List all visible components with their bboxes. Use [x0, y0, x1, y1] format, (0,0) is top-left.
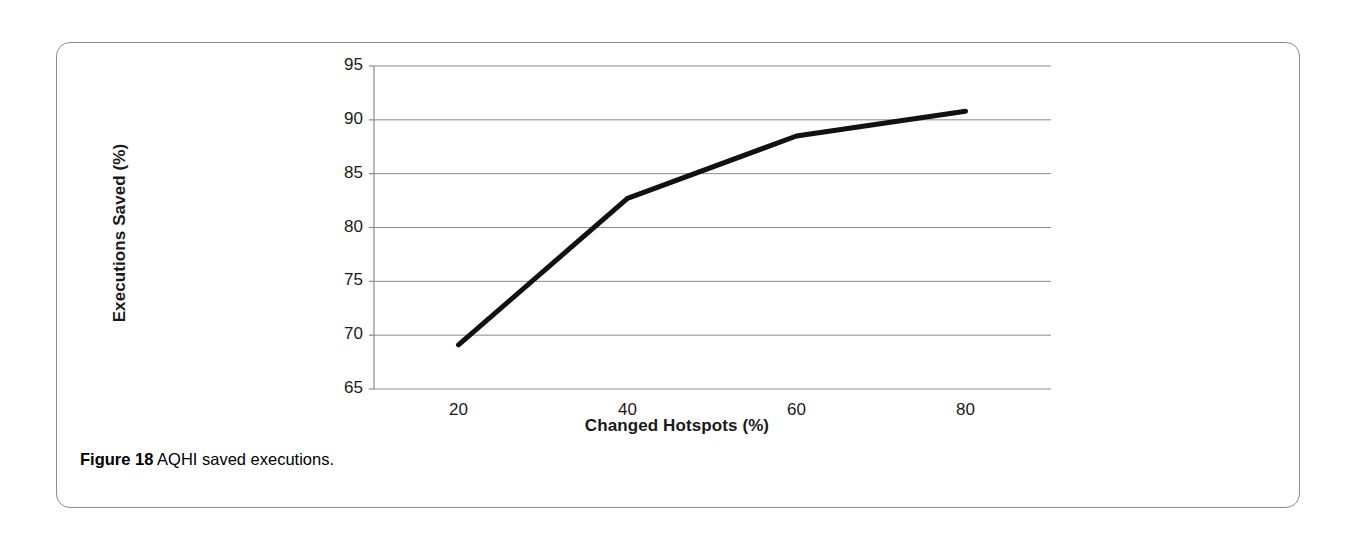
- y-axis-tick-label: 75: [317, 270, 363, 290]
- x-axis-tick-label: 60: [767, 400, 827, 420]
- y-axis-title: Executions Saved (%): [110, 113, 130, 353]
- y-axis-tick-label: 70: [317, 324, 363, 344]
- x-axis-tick-label: 40: [598, 400, 658, 420]
- x-axis-tick-label: 20: [429, 400, 489, 420]
- figure-caption-body: AQHI saved executions.: [157, 450, 334, 468]
- y-axis-tick-label: 65: [317, 378, 363, 398]
- figure-panel: Executions Saved (%) Changed Hotspots (%…: [56, 42, 1300, 508]
- chart-canvas: [57, 43, 1301, 443]
- y-axis-tick-label: 80: [317, 217, 363, 237]
- y-axis-tick-label: 90: [317, 109, 363, 129]
- y-axis-tick-label: 95: [317, 55, 363, 75]
- figure-caption: Figure 18 AQHI saved executions.: [80, 450, 334, 469]
- data-series-line: [459, 111, 966, 345]
- figure-caption-label: Figure 18: [80, 450, 153, 468]
- chart-plot-area: Executions Saved (%) Changed Hotspots (%…: [57, 43, 1299, 507]
- y-axis-tick-label: 85: [317, 163, 363, 183]
- x-axis-tick-label: 80: [936, 400, 996, 420]
